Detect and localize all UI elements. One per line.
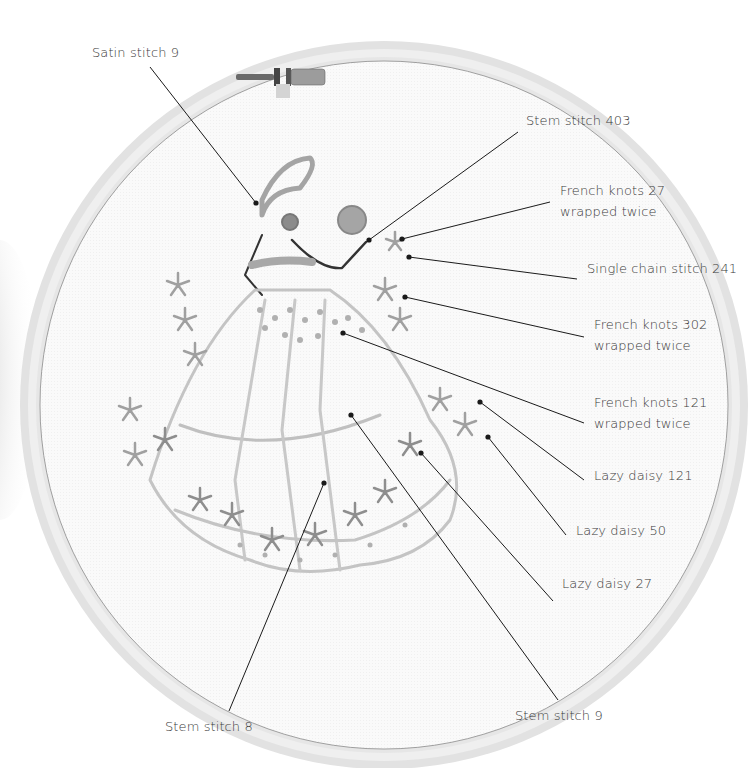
label-line: Stem stitch 9 bbox=[515, 705, 603, 726]
anchor-dot bbox=[418, 450, 423, 455]
label-satin-stitch-9: Satin stitch 9 bbox=[92, 42, 179, 63]
label-lazy-daisy-121: Lazy daisy 121 bbox=[594, 465, 693, 486]
anchor-dot bbox=[485, 434, 490, 439]
label-lazy-daisy-50: Lazy daisy 50 bbox=[576, 520, 666, 541]
label-stem-stitch-9: Stem stitch 9 bbox=[515, 705, 603, 726]
label-line: Lazy daisy 27 bbox=[562, 573, 652, 594]
label-french-knots-302: French knots 302wrapped twice bbox=[594, 314, 707, 356]
anchor-dot bbox=[321, 480, 326, 485]
anchor-dot bbox=[366, 237, 371, 242]
label-line: wrapped twice bbox=[594, 335, 707, 356]
label-single-chain-stitch-241: Single chain stitch 241 bbox=[587, 258, 737, 279]
embroidery-diagram bbox=[0, 0, 753, 768]
label-french-knots-27: French knots 27wrapped twice bbox=[560, 180, 665, 222]
label-line: Lazy daisy 121 bbox=[594, 465, 693, 486]
label-line: Single chain stitch 241 bbox=[587, 258, 737, 279]
label-line: Lazy daisy 50 bbox=[576, 520, 666, 541]
label-line: Stem stitch 403 bbox=[526, 110, 631, 131]
label-line: French knots 27 bbox=[560, 180, 665, 201]
label-stem-stitch-8: Stem stitch 8 bbox=[165, 716, 253, 737]
anchor-dot bbox=[348, 412, 353, 417]
anchor-dot bbox=[406, 254, 411, 259]
label-line: Stem stitch 8 bbox=[165, 716, 253, 737]
label-stem-stitch-403: Stem stitch 403 bbox=[526, 110, 631, 131]
anchor-dot bbox=[253, 200, 258, 205]
label-line: French knots 302 bbox=[594, 314, 707, 335]
label-line: wrapped twice bbox=[594, 413, 707, 434]
label-line: French knots 121 bbox=[594, 392, 707, 413]
label-line: wrapped twice bbox=[560, 201, 665, 222]
label-lazy-daisy-27: Lazy daisy 27 bbox=[562, 573, 652, 594]
anchor-dot bbox=[402, 294, 407, 299]
anchor-dot bbox=[477, 399, 482, 404]
label-french-knots-121: French knots 121wrapped twice bbox=[594, 392, 707, 434]
anchor-dot bbox=[340, 330, 345, 335]
anchor-dot bbox=[399, 236, 404, 241]
label-line: Satin stitch 9 bbox=[92, 42, 179, 63]
